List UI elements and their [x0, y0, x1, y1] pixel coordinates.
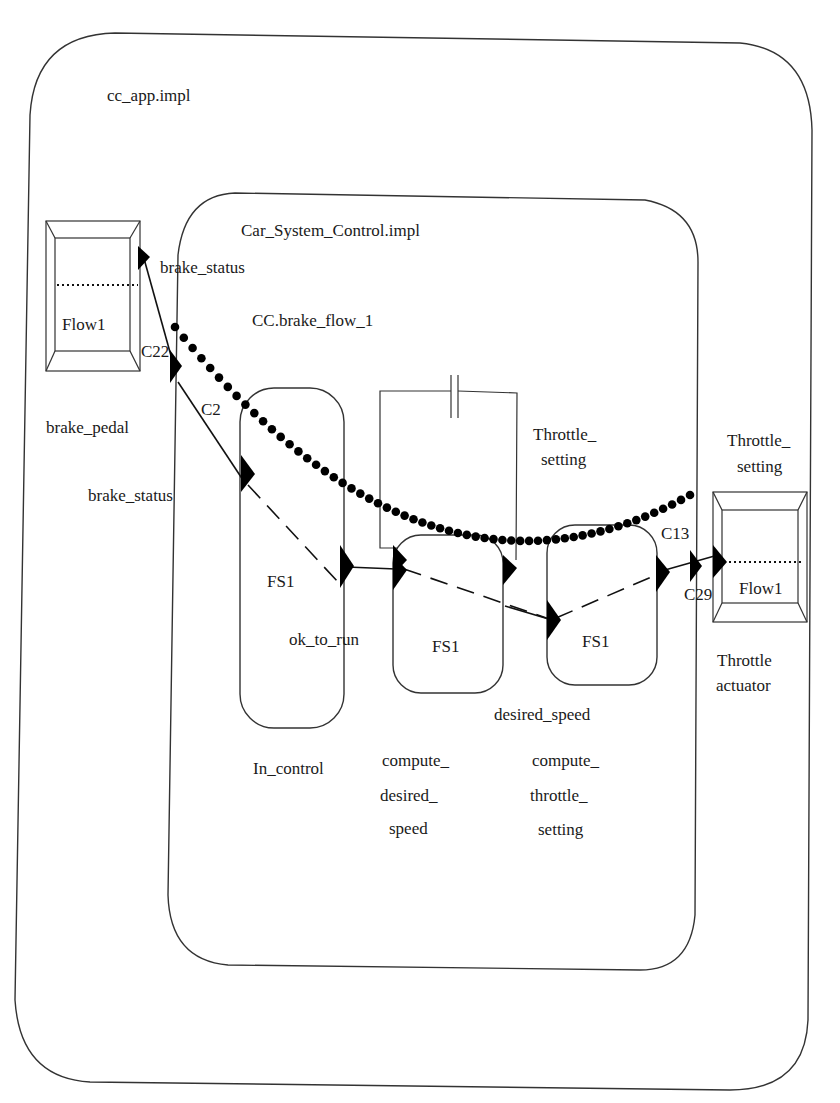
flow-dot [418, 518, 427, 527]
flow-dot [436, 524, 445, 533]
flow-dot [383, 503, 392, 512]
flow-dot [507, 536, 516, 545]
flow-dot [259, 417, 268, 426]
port-actuator-in[interactable] [713, 545, 727, 578]
flow-dot [400, 511, 409, 520]
flow-dot [578, 531, 587, 540]
flow-dot [454, 529, 463, 538]
end-to-end-flow-dots[interactable] [171, 323, 695, 546]
flow-in-control-internal[interactable] [248, 485, 338, 582]
flow-dot [268, 425, 277, 434]
flow-dot [197, 354, 206, 363]
throttle-actuator-label-2: actuator [716, 676, 771, 695]
throttle-actuator-device[interactable] [713, 492, 807, 622]
throttle-actuator-label-1: Throttle [717, 651, 772, 670]
flow-dot [224, 383, 233, 392]
flow-dot [569, 533, 578, 542]
inner-system-label: Car_System_Control.impl [241, 221, 420, 240]
flow-dot [276, 433, 285, 442]
throttle-setting-inner-label-2: setting [541, 450, 587, 469]
port-compute-desired-out[interactable] [503, 555, 517, 585]
flow-dot [356, 489, 365, 498]
throttle-setting-inner-label-1: Throttle_ [533, 425, 597, 444]
flow-dot [650, 509, 659, 518]
flow-dot [668, 500, 677, 509]
process-1-name: In_control [253, 759, 324, 778]
process-compute-throttle-setting[interactable] [547, 525, 657, 685]
process-1-flowspec: FS1 [267, 572, 294, 591]
flow-dot [614, 522, 623, 531]
flow-dot [543, 536, 552, 545]
flow-dot [206, 364, 215, 373]
flow-dot [427, 521, 436, 530]
flow-dot [659, 505, 668, 514]
flow-compute-desired-internal[interactable] [404, 569, 552, 620]
flow-dot [285, 440, 294, 449]
process-2-name-1: compute_ [382, 751, 450, 770]
flow-dot [171, 323, 180, 332]
flow-dot [534, 536, 543, 545]
flow-dot [347, 484, 356, 493]
flow-dot [463, 531, 472, 540]
brake-pedal-label: brake_pedal [46, 418, 129, 437]
flow-dot [338, 479, 347, 488]
left-flow-label: Flow1 [62, 315, 105, 334]
flow-dot [409, 515, 418, 524]
flow-dot [561, 534, 570, 543]
connection-desired-speed[interactable] [505, 606, 552, 620]
connection-c2-label: C2 [201, 400, 221, 419]
process-3-flowspec: FS1 [582, 632, 609, 651]
flow-dot [471, 532, 480, 541]
process-compute-desired-speed[interactable] [393, 535, 503, 693]
brake-pedal-device[interactable] [46, 221, 140, 371]
connection-c13-label: C13 [661, 524, 689, 543]
process-3-name-3: setting [538, 820, 584, 839]
flow-dot [605, 525, 614, 534]
port-compute-throttle-in[interactable] [547, 600, 561, 640]
flow-dot [623, 519, 632, 528]
flow-dot [525, 537, 534, 546]
throttle-setting-outer-label-2: setting [737, 457, 783, 476]
desired-speed-label: desired_speed [494, 705, 591, 724]
flow-dot [641, 512, 650, 521]
flow-dot [188, 344, 197, 353]
flow-dot [365, 494, 374, 503]
flow-dot [321, 467, 330, 476]
flow-path-label: CC.brake_flow_1 [252, 311, 373, 330]
port-brake-status-out[interactable] [138, 246, 150, 270]
flow-dot [632, 516, 641, 525]
connection-ok-to-run[interactable] [347, 567, 396, 569]
flow-dot [250, 409, 259, 418]
flow-dot [232, 392, 241, 401]
port-compute-throttle-out[interactable] [656, 555, 670, 592]
flow-dot [330, 473, 339, 482]
process-2-name-2: desired_ [380, 786, 438, 805]
process-3-name-2: throttle_ [530, 786, 588, 805]
flow-dot [596, 527, 605, 536]
ok-to-run-label: ok_to_run [289, 630, 359, 649]
port-ok-to-run-out[interactable] [340, 545, 354, 588]
connection-c29-label: C29 [684, 585, 712, 604]
outer-system-label: cc_app.impl [107, 86, 191, 105]
throttle-setting-outer-label-1: Throttle_ [727, 431, 791, 450]
flow-dot [392, 507, 401, 516]
flow-dot [516, 537, 525, 546]
flow-dot [686, 491, 695, 500]
flow-dot [445, 526, 454, 535]
flow-dot [215, 373, 224, 382]
flow-dot [294, 447, 303, 456]
flow-dot [677, 496, 686, 505]
right-flow-label: Flow1 [739, 579, 782, 598]
process-in-control[interactable] [240, 388, 344, 728]
flow-dot [587, 529, 596, 538]
brake-status-outer-label: brake_status [160, 258, 245, 277]
aadl-flow-diagram: cc_app.impl Car_System_Control.impl Flow… [0, 0, 840, 1103]
flow-dot [312, 461, 321, 470]
port-in-control-in[interactable] [241, 455, 255, 492]
flow-compute-throttle-internal[interactable] [556, 575, 656, 618]
flow-dot [374, 499, 383, 508]
flow-dot [303, 454, 312, 463]
connection-c22-label: C22 [141, 342, 169, 361]
process-3-name-1: compute_ [532, 751, 600, 770]
flow-dot [480, 534, 489, 543]
